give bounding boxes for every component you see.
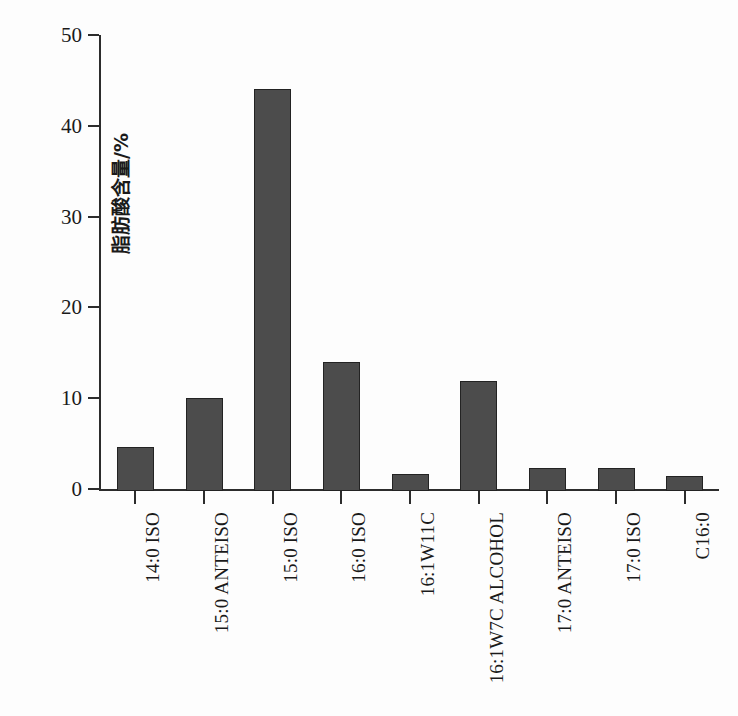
y-axis-tick-label: 40 xyxy=(22,115,82,136)
y-axis-tick-mark xyxy=(88,488,99,490)
x-axis-tick-label: 15:0 ANTEISO xyxy=(212,512,231,633)
x-axis-tick-mark xyxy=(615,491,617,504)
bar xyxy=(598,468,635,491)
x-axis-tick-label: 14:0 ISO xyxy=(143,512,162,583)
x-axis-tick-label: C16:0 xyxy=(693,512,712,559)
x-axis-tick-mark xyxy=(134,491,136,504)
bar xyxy=(254,89,291,491)
x-axis-tick-mark xyxy=(409,491,411,504)
y-axis-tick-mark xyxy=(88,216,99,218)
x-axis-tick-mark xyxy=(340,491,342,504)
plot-area xyxy=(101,35,719,491)
y-axis-tick-label: 30 xyxy=(22,206,82,227)
x-axis-tick-label: 15:0 ISO xyxy=(281,512,300,583)
y-axis-tick-label: 0 xyxy=(22,479,82,500)
x-axis-tick-label: 17:0 ANTEISO xyxy=(555,512,574,633)
y-axis-tick-mark xyxy=(88,397,99,399)
y-axis-tick-label: 50 xyxy=(22,25,82,46)
bar xyxy=(323,362,360,491)
bar xyxy=(460,381,497,491)
x-axis-tick-mark xyxy=(272,491,274,504)
fatty-acid-composition-bar-chart: 脂肪酸含量/% 01020304050 14:0 ISO15:0 ANTEISO… xyxy=(0,0,738,716)
x-axis-tick-label: 17:0 ISO xyxy=(624,512,643,583)
x-axis-tick-label: 16:1W7C ALCOHOL xyxy=(487,512,506,683)
x-axis-tick-mark xyxy=(684,491,686,504)
bar xyxy=(117,447,154,491)
y-axis-tick-mark xyxy=(88,34,99,36)
x-axis-tick-label: 16:1W11C xyxy=(418,512,437,596)
x-axis-tick-mark xyxy=(203,491,205,504)
x-axis-tick-label: 16:0 ISO xyxy=(349,512,368,583)
x-axis-tick-mark xyxy=(478,491,480,504)
bar xyxy=(392,474,429,491)
y-axis-tick-label: 10 xyxy=(22,388,82,409)
x-axis-tick-mark xyxy=(546,491,548,504)
y-axis-tick-label: 20 xyxy=(22,297,82,318)
bar xyxy=(529,468,566,491)
y-axis-tick-mark xyxy=(88,125,99,127)
bar xyxy=(666,476,703,491)
y-axis-tick-mark xyxy=(88,306,99,308)
bar xyxy=(186,398,223,491)
